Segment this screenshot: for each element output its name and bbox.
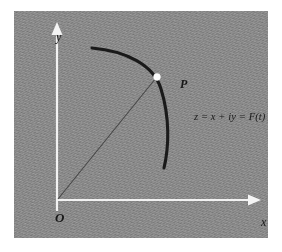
point-marker-icon (154, 74, 161, 81)
point-label: P (180, 78, 187, 90)
origin-label: O (55, 211, 64, 224)
figure-root: y x O P z = x + iy = F(t) (0, 0, 282, 252)
parametric-curve-path (92, 48, 168, 168)
radius-vector-line (58, 78, 156, 199)
figure-canvas (14, 11, 268, 238)
arrow-right-icon (248, 195, 261, 206)
equation-label: z = x + iy = F(t) (194, 112, 265, 123)
plot-panel: y x O P z = x + iy = F(t) (14, 11, 268, 238)
y-axis-label: y (56, 31, 61, 43)
x-axis-label: x (261, 216, 266, 228)
